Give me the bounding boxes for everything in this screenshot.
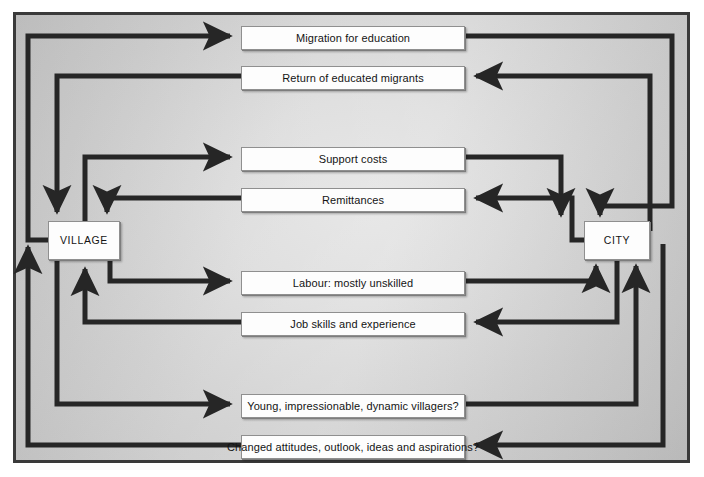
flow-label-return-of-educated-migrants: Return of educated migrants — [282, 73, 424, 84]
endpoint-city[interactable]: CITY — [584, 221, 650, 260]
flow-label-labour-mostly-unskilled: Labour: mostly unskilled — [293, 278, 413, 289]
flow-box-migration-for-education[interactable]: Migration for education — [241, 26, 465, 50]
flow-label-job-skills-and-experience: Job skills and experience — [290, 319, 415, 330]
flow-box-return-of-educated-migrants[interactable]: Return of educated migrants — [241, 66, 465, 90]
flow-box-labour-mostly-unskilled[interactable]: Labour: mostly unskilled — [241, 271, 465, 295]
flow-label-migration-for-education: Migration for education — [296, 33, 410, 44]
flow-box-support-costs[interactable]: Support costs — [241, 147, 465, 171]
endpoint-village-label: VILLAGE — [60, 235, 108, 246]
flow-label-young-impressionable: Young, impressionable, dynamic villagers… — [247, 401, 459, 412]
flow-box-young-impressionable[interactable]: Young, impressionable, dynamic villagers… — [241, 394, 465, 418]
flow-box-job-skills-and-experience[interactable]: Job skills and experience — [241, 312, 465, 336]
endpoint-village[interactable]: VILLAGE — [48, 221, 120, 260]
flow-box-changed-attitudes[interactable]: Changed attitudes, outlook, ideas and as… — [241, 435, 465, 459]
endpoint-city-label: CITY — [604, 235, 630, 246]
flow-label-remittances: Remittances — [322, 195, 384, 206]
migration-diagram: VILLAGE CITY Migration for education Ret… — [0, 0, 704, 477]
flow-label-support-costs: Support costs — [319, 154, 388, 165]
flow-box-remittances[interactable]: Remittances — [241, 188, 465, 212]
flow-label-changed-attitudes: Changed attitudes, outlook, ideas and as… — [227, 442, 479, 453]
